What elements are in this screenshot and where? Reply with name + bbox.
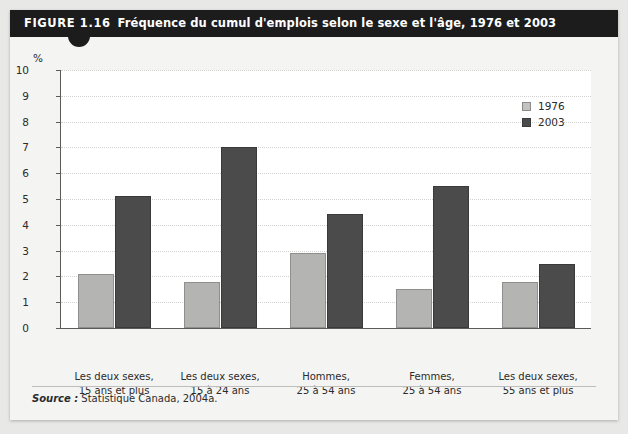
y-axis-tick [56, 276, 61, 277]
y-axis-tick-label: 7 [3, 141, 29, 153]
y-axis-tick [56, 173, 61, 174]
legend-item-1976: 1976 [522, 99, 565, 113]
y-axis-tick [56, 122, 61, 123]
legend-label-1976: 1976 [538, 100, 565, 112]
plot-region: 012345678910Les deux sexes,15 ans et plu… [60, 70, 591, 329]
y-axis-tick [56, 328, 61, 329]
y-axis-tick-label: 1 [3, 296, 29, 308]
y-axis-tick-label: 5 [3, 193, 29, 205]
figure-number: FIGURE 1.16 [24, 16, 111, 30]
bar-group [290, 70, 363, 328]
source-text: Statistique Canada, 2004a. [78, 393, 217, 404]
y-axis-tick [56, 251, 61, 252]
y-axis-tick [56, 147, 61, 148]
source-line: Source :Statistique Canada, 2004a. [32, 393, 218, 404]
y-axis-tick [56, 70, 61, 71]
y-axis-tick [56, 302, 61, 303]
bar-1976-2[interactable] [184, 282, 220, 328]
y-axis-tick-label: 3 [3, 245, 29, 257]
x-axis-category-line: Les deux sexes, [463, 370, 613, 384]
y-axis-tick-label: 10 [3, 64, 29, 76]
y-axis-tick-label: 2 [3, 270, 29, 282]
figure-title-bar: FIGURE 1.16Fréquence du cumul d'emplois … [10, 10, 618, 37]
legend-label-2003: 2003 [538, 116, 565, 128]
legend-item-2003: 2003 [522, 115, 565, 129]
y-axis-tick-label: 0 [3, 322, 29, 334]
bar-2003-1[interactable] [115, 196, 151, 328]
y-axis-tick-label: 9 [3, 90, 29, 102]
legend-swatch-1976 [522, 102, 531, 111]
figure-panel: FIGURE 1.16Fréquence du cumul d'emplois … [10, 10, 618, 420]
figure-title: FIGURE 1.16Fréquence du cumul d'emplois … [24, 16, 556, 30]
bar-2003-3[interactable] [327, 214, 363, 328]
y-axis-tick-label: 6 [3, 167, 29, 179]
bar-1976-3[interactable] [290, 253, 326, 328]
bar-group [396, 70, 469, 328]
chart-area: % 012345678910Les deux sexes,15 ans et p… [10, 37, 618, 420]
source-divider [32, 386, 596, 387]
legend-swatch-2003 [522, 118, 531, 127]
source-label: Source : [32, 393, 78, 404]
y-axis-tick [56, 96, 61, 97]
bar-2003-2[interactable] [221, 147, 257, 328]
bar-group [78, 70, 151, 328]
chart-legend: 1976 2003 [522, 99, 565, 131]
y-axis-tick [56, 199, 61, 200]
y-axis-tick-label: 8 [3, 116, 29, 128]
figure-caption: Fréquence du cumul d'emplois selon le se… [111, 16, 557, 30]
bar-2003-4[interactable] [433, 186, 469, 328]
y-axis-tick [56, 225, 61, 226]
bar-1976-5[interactable] [502, 282, 538, 328]
bar-1976-1[interactable] [78, 274, 114, 328]
x-axis-category-label: Les deux sexes,55 ans et plus [463, 370, 613, 397]
y-axis-tick-label: 4 [3, 219, 29, 231]
bar-1976-4[interactable] [396, 289, 432, 328]
bar-2003-5[interactable] [539, 264, 575, 329]
y-axis-unit-label: % [33, 52, 43, 64]
bar-group [184, 70, 257, 328]
